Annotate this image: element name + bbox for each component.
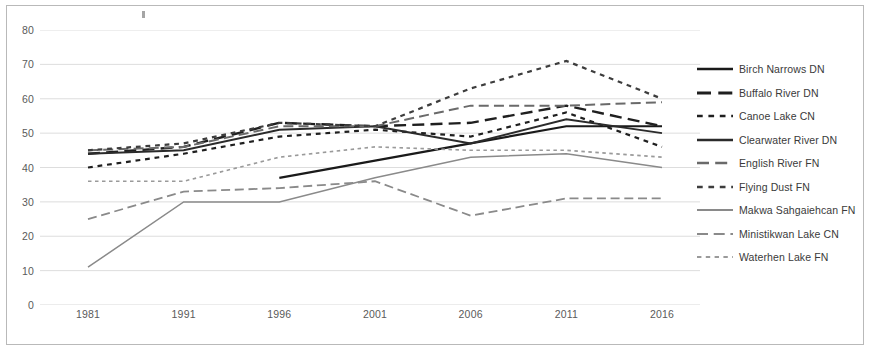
x-axis-tick-1991: 1991 xyxy=(172,308,196,320)
legend-item-canoe-lake-cn[interactable]: Canoe Lake CN xyxy=(697,109,815,123)
legend-item-label: English River FN xyxy=(739,157,819,169)
x-axis-tick-1996: 1996 xyxy=(267,308,291,320)
x-axis-tick-1981: 1981 xyxy=(76,308,100,320)
legend-item-clearwater-river-dn[interactable]: Clearwater River DN xyxy=(697,133,837,147)
y-axis-tick-80: 80 xyxy=(22,24,34,36)
plot-svg xyxy=(40,30,700,305)
line-chart-figure: 80706050403020100 1981199119962001200620… xyxy=(0,0,872,358)
y-axis-tick-30: 30 xyxy=(22,196,34,208)
y-axis-tick-70: 70 xyxy=(22,58,34,70)
legend-line-swatch xyxy=(697,228,733,240)
y-axis-tick-60: 60 xyxy=(22,93,34,105)
legend-item-makwa-sahgaiehcan-fn[interactable]: Makwa Sahgaiehcan FN xyxy=(697,203,855,217)
legend-line-swatch xyxy=(697,87,733,99)
x-axis-tick-2016: 2016 xyxy=(650,308,674,320)
legend-item-english-river-fn[interactable]: English River FN xyxy=(697,156,819,170)
legend-item-waterhen-lake-fn[interactable]: Waterhen Lake FN xyxy=(697,250,828,264)
legend-line-swatch xyxy=(697,63,733,75)
plot-area xyxy=(40,30,700,305)
legend-item-flying-dust-fn[interactable]: Flying Dust FN xyxy=(697,180,810,194)
legend-item-birch-narrows-dn[interactable]: Birch Narrows DN xyxy=(697,62,825,76)
legend-line-swatch xyxy=(697,181,733,193)
legend-item-label: Makwa Sahgaiehcan FN xyxy=(739,204,855,216)
legend-line-swatch xyxy=(697,157,733,169)
y-axis-tick-labels: 80706050403020100 xyxy=(0,30,40,305)
series-line-clearwater-river-dn xyxy=(88,119,662,153)
series-line-ministikwan-lake-cn xyxy=(88,181,662,219)
x-axis-tick-2006: 2006 xyxy=(459,308,483,320)
y-axis-tick-10: 10 xyxy=(22,265,34,277)
legend-item-buffalo-river-dn[interactable]: Buffalo River DN xyxy=(697,86,819,100)
legend-item-label: Birch Narrows DN xyxy=(739,63,825,75)
y-axis-tick-40: 40 xyxy=(22,162,34,174)
legend-item-label: Buffalo River DN xyxy=(739,87,819,99)
legend-item-label: Canoe Lake CN xyxy=(739,110,815,122)
y-axis-tick-50: 50 xyxy=(22,127,34,139)
scan-artifact-mark xyxy=(142,11,145,18)
y-axis-tick-0: 0 xyxy=(28,299,34,311)
x-axis-tick-2011: 2011 xyxy=(555,308,578,320)
legend-line-swatch xyxy=(697,251,733,263)
legend-item-ministikwan-lake-cn[interactable]: Ministikwan Lake CN xyxy=(697,227,839,241)
y-axis-tick-20: 20 xyxy=(22,230,34,242)
legend-item-label: Clearwater River DN xyxy=(739,134,837,146)
legend-item-label: Flying Dust FN xyxy=(739,181,810,193)
series-line-waterhen-lake-fn xyxy=(88,147,662,181)
chart-legend: Birch Narrows DNBuffalo River DNCanoe La… xyxy=(697,62,865,277)
legend-line-swatch xyxy=(697,204,733,216)
x-axis-tick-2001: 2001 xyxy=(363,308,387,320)
legend-line-swatch xyxy=(697,110,733,122)
legend-line-swatch xyxy=(697,134,733,146)
series-line-makwa-sahgaiehcan-fn xyxy=(88,154,662,267)
series-line-birch-narrows-dn xyxy=(279,126,662,178)
legend-item-label: Waterhen Lake FN xyxy=(739,251,828,263)
x-axis-tick-labels: 1981199119962001200620112016 xyxy=(40,308,700,332)
legend-item-label: Ministikwan Lake CN xyxy=(739,228,839,240)
